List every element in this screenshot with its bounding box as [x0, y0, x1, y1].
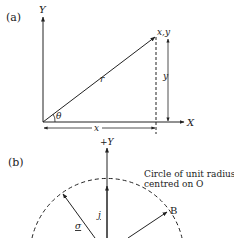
circle-note-line2: centred on O: [144, 179, 203, 189]
panel-b-label: (b): [8, 156, 24, 169]
y-axis-label: Y: [39, 4, 47, 15]
radius-label: r: [100, 74, 105, 84]
sigma-vector: [63, 194, 95, 238]
circle-note-line1: Circle of unit radius,: [144, 169, 234, 179]
angle-label: θ: [56, 111, 62, 121]
b-vector: [128, 212, 167, 238]
point-b-label: B: [170, 205, 177, 216]
plus-y-axis-label: +Y: [100, 137, 115, 147]
sigma-vector-label: σ: [75, 221, 82, 231]
panel-b: (b) +Y j σ B Circle of unit radius, cent…: [8, 137, 234, 238]
x-axis-label: X: [186, 117, 195, 128]
point-label: x,y: [157, 27, 171, 37]
radius-vector: [43, 37, 155, 122]
x-dimension-label: x: [94, 123, 99, 133]
panel-a: (a) Y X r x,y y x θ: [6, 4, 195, 134]
j-vector-label: j: [96, 210, 101, 220]
diagram-canvas: (a) Y X r x,y y x θ (b) +Y j: [0, 0, 234, 238]
panel-a-label: (a): [6, 11, 21, 24]
y-dimension-label: y: [162, 71, 169, 81]
angle-arc: [53, 114, 55, 122]
